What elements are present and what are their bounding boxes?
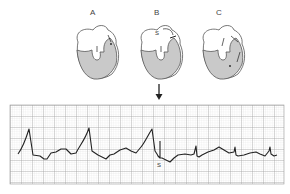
ecg-grid xyxy=(10,105,284,184)
heart-a-icon xyxy=(77,26,119,80)
diagram-canvas: S S xyxy=(0,0,290,194)
heart-b-icon: S xyxy=(141,26,183,80)
ecg-s-label: S xyxy=(157,162,161,168)
down-arrow-icon xyxy=(156,84,163,100)
heart-c-icon xyxy=(203,26,245,80)
heart-b-s-label: S xyxy=(155,30,159,36)
